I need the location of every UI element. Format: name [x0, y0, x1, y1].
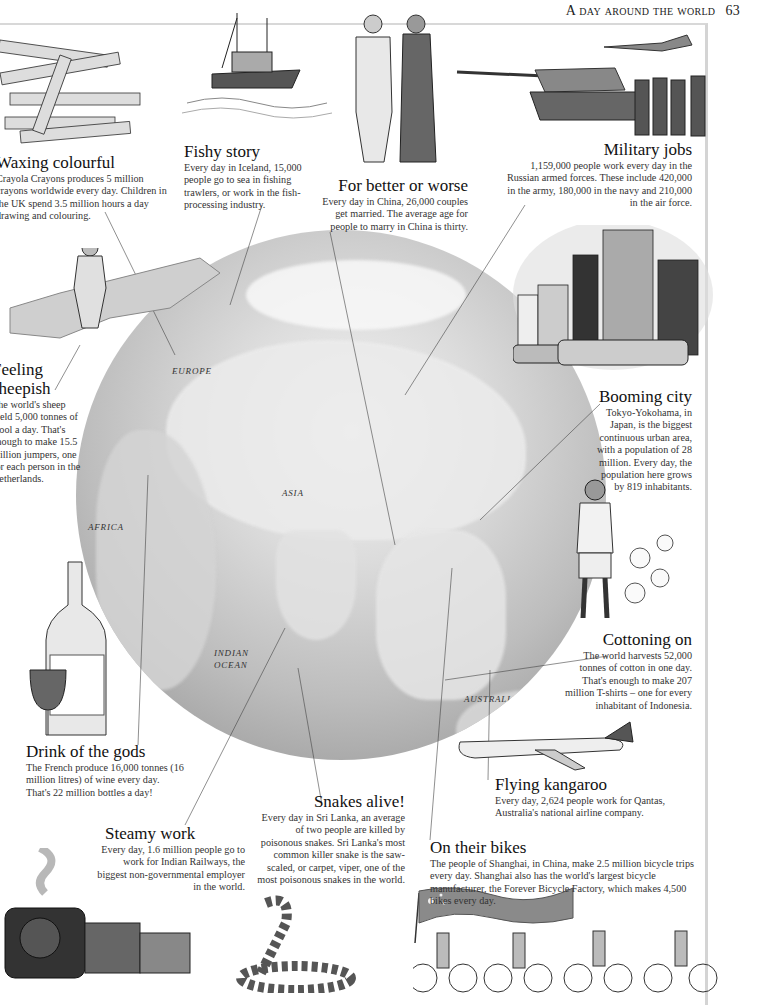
story-body: Every day in Sri Lanka, an average of tw… — [255, 812, 405, 886]
story-title: Flying kangaroo — [495, 775, 685, 794]
story-cottoning-on: Cottoning on The world harvests 52,000 t… — [560, 630, 692, 712]
map-label-asia: ASIA — [282, 488, 304, 498]
story-title-line1: Feeling — [0, 360, 87, 379]
story-title: Fishy story — [184, 142, 309, 161]
running-title: A day around the world — [566, 3, 716, 18]
story-flying-kangaroo: Flying kangaroo Every day, 2,624 people … — [495, 775, 685, 820]
map-label-indian-ocean-2: OCEAN — [214, 660, 248, 670]
landmass-india — [276, 530, 356, 640]
story-feeling-sheepish: Feeling sheepish The world's sheep yield… — [0, 360, 87, 486]
landmass-asia — [166, 340, 526, 540]
snake-illustration — [236, 893, 356, 993]
qantas-airplane-illustration — [455, 720, 635, 780]
page-number: 63 — [725, 3, 740, 18]
wedding-couple-illustration — [348, 12, 443, 167]
story-body: The world harvests 52,000 tonnes of cott… — [560, 650, 692, 712]
story-body: Every day, 2,624 people work for Qantas,… — [495, 795, 685, 820]
story-for-better-or-worse: For better or worse Every day in China, … — [320, 176, 468, 233]
story-military-jobs: Military jobs 1,159,000 people work ever… — [500, 140, 692, 210]
trawler-illustration — [182, 8, 332, 128]
running-head: A day around the world63 — [566, 3, 740, 19]
story-body: Every day in Iceland, 15,000 people go t… — [184, 162, 309, 212]
map-label-australia: AUSTRALIA — [464, 694, 517, 704]
tokyo-city-illustration — [513, 225, 713, 380]
story-body: Every day, 1.6 million people go to work… — [95, 844, 245, 894]
map-label-africa: AFRICA — [88, 522, 124, 532]
story-snakes-alive: Snakes alive! Every day in Sri Lanka, an… — [255, 792, 405, 886]
crayons-illustration — [0, 35, 155, 145]
map-label-europe: EUROPE — [172, 366, 212, 376]
map-label-indian-ocean-1: INDIAN — [214, 648, 249, 658]
tank-and-soldiers-illustration — [455, 60, 715, 140]
story-title: Steamy work — [95, 824, 245, 843]
story-body: The world's sheep yield 5,000 tonnes of … — [0, 399, 87, 486]
story-title: Snakes alive! — [255, 792, 405, 811]
story-title: Booming city — [595, 387, 692, 406]
story-steamy-work: Steamy work Every day, 1.6 million peopl… — [95, 824, 245, 894]
story-title: Cottoning on — [560, 630, 692, 649]
story-title: Drink of the gods — [26, 742, 186, 761]
arctic-ice — [246, 260, 466, 330]
story-drink-of-the-gods: Drink of the gods The French produce 16,… — [26, 742, 186, 799]
story-title: For better or worse — [320, 176, 468, 195]
farmer-sheep-map-illustration — [0, 248, 228, 358]
story-waxing-colourful: Waxing colourful Crayola Crayons produce… — [0, 153, 176, 223]
landmass-southeast-asia — [376, 530, 506, 700]
story-body: The French produce 16,000 tonnes (16 mil… — [26, 762, 186, 799]
story-body: Crayola Crayons produces 5 million crayo… — [0, 173, 176, 223]
wine-bottle-glass-illustration — [28, 560, 113, 740]
fighter-jet-illustration — [602, 33, 697, 61]
story-body: Every day in China, 26,000 couples get m… — [320, 196, 468, 233]
story-body: The people of Shanghai, in China, make 2… — [430, 858, 695, 908]
story-title: Waxing colourful — [0, 153, 176, 172]
story-title: Military jobs — [500, 140, 692, 159]
story-body: Tokyo-Yokohama, in Japan, is the biggest… — [595, 407, 692, 494]
cotton-picker-illustration — [555, 478, 680, 628]
story-title: On their bikes — [430, 838, 695, 857]
story-fishy-story: Fishy story Every day in Iceland, 15,000… — [184, 142, 309, 212]
story-body: 1,159,000 people work every day in the R… — [500, 160, 692, 210]
story-title-line2: sheepish — [0, 379, 87, 398]
story-booming-city: Booming city Tokyo-Yokohama, in Japan, i… — [595, 387, 692, 494]
story-on-their-bikes: On their bikes The people of Shanghai, i… — [430, 838, 695, 908]
